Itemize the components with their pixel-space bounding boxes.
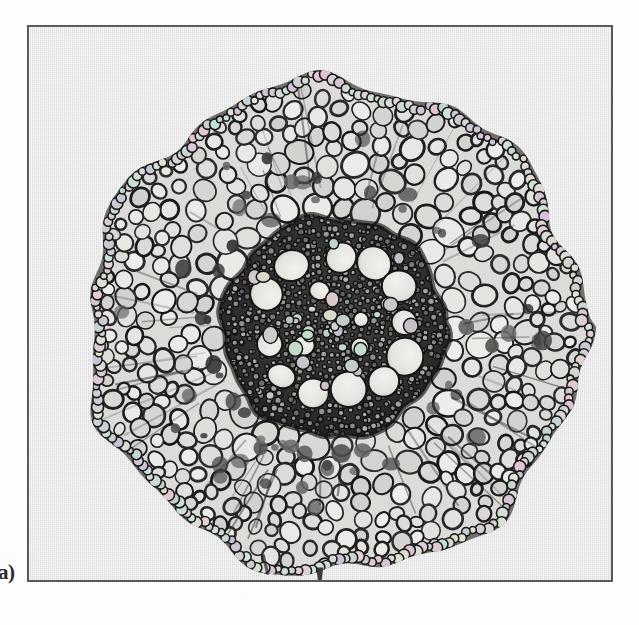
figure-page: a) bbox=[0, 0, 639, 625]
micrograph-canvas bbox=[29, 27, 611, 580]
panel-label: a) bbox=[0, 561, 15, 583]
figure-frame bbox=[27, 25, 613, 582]
root-cross-section-micrograph bbox=[29, 27, 611, 580]
micrograph-grain bbox=[29, 27, 611, 580]
